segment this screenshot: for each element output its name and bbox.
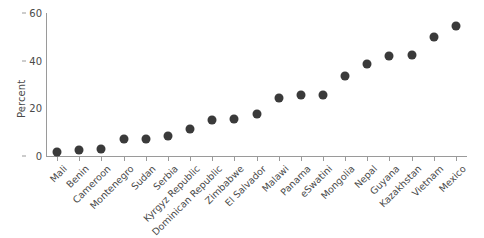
y-tick-mark	[22, 156, 26, 157]
data-point	[407, 51, 416, 60]
y-tick-mark	[22, 13, 26, 14]
x-tick-mark	[101, 157, 102, 161]
x-tick-mark	[434, 157, 435, 161]
data-point	[208, 116, 217, 125]
x-tick-mark	[389, 157, 390, 161]
x-tick-mark	[212, 157, 213, 161]
data-point	[363, 60, 372, 69]
x-tick-mark	[345, 157, 346, 161]
data-point	[230, 114, 239, 123]
data-point	[341, 72, 350, 81]
y-axis-line	[46, 13, 47, 156]
y-tick-label: 40	[24, 55, 42, 66]
x-tick-mark	[367, 157, 368, 161]
x-tick-mark	[168, 157, 169, 161]
y-tick-mark	[22, 60, 26, 61]
data-point	[97, 145, 106, 154]
data-point	[186, 124, 195, 133]
data-point	[296, 91, 305, 100]
data-point	[141, 135, 150, 144]
x-tick-mark	[323, 157, 324, 161]
data-point	[318, 90, 327, 99]
data-point	[163, 131, 172, 140]
data-point	[252, 109, 261, 118]
y-tick-mark	[22, 108, 26, 109]
scatter-chart: Percent 0204060 MaliBeninCameroonMontene…	[0, 0, 484, 238]
data-point	[274, 94, 283, 103]
data-point	[385, 52, 394, 61]
y-tick-label: 60	[24, 8, 42, 19]
data-point	[429, 32, 438, 41]
x-tick-mark	[79, 157, 80, 161]
x-tick-mark	[124, 157, 125, 161]
x-tick-mark	[234, 157, 235, 161]
data-point	[53, 147, 62, 156]
x-tick-mark	[257, 157, 258, 161]
x-tick-mark	[190, 157, 191, 161]
x-tick-mark	[301, 157, 302, 161]
y-tick-label: 0	[24, 151, 42, 162]
x-tick-mark	[456, 157, 457, 161]
x-tick-mark	[146, 157, 147, 161]
x-tick-mark	[57, 157, 58, 161]
x-tick-mark	[412, 157, 413, 161]
y-tick-label: 20	[24, 103, 42, 114]
data-point	[75, 145, 84, 154]
data-point	[451, 22, 460, 31]
data-point	[119, 135, 128, 144]
x-tick-mark	[279, 157, 280, 161]
